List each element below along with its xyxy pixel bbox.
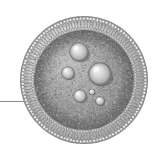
liposome-canvas	[0, 0, 153, 151]
liposome-figure: Grayscale cross-section illustration of …	[0, 0, 153, 151]
